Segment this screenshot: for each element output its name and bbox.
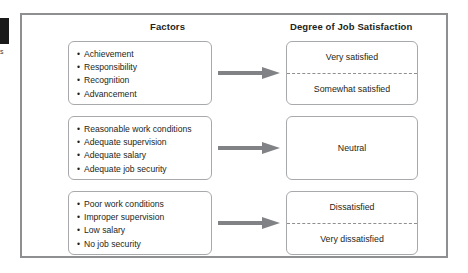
list-item: Responsibility: [77, 61, 211, 74]
factors-list: Reasonable work conditions Adequate supe…: [77, 123, 211, 176]
right-arrow-icon: [218, 66, 280, 80]
column-headers: Factors Degree of Job Satisfaction: [22, 15, 446, 43]
factors-list: Achievement Responsibility Recognition A…: [77, 48, 211, 101]
satisfaction-box: Dissatisfied Very dissatisfied: [286, 191, 418, 255]
list-item: Achievement: [77, 48, 211, 61]
figure-row: Achievement Responsibility Recognition A…: [22, 41, 446, 109]
page-edge-tab: [0, 18, 9, 44]
figure-rows: Achievement Responsibility Recognition A…: [22, 41, 446, 266]
list-item: Poor work conditions: [77, 198, 211, 211]
satisfaction-box: Very satisfied Somewhat satisfied: [286, 41, 418, 105]
satisfaction-label: Dissatisfied: [287, 192, 417, 223]
figure-row: Poor work conditions Improper supervisio…: [22, 191, 446, 259]
right-arrow-icon: [218, 141, 280, 155]
factors-list: Poor work conditions Improper supervisio…: [77, 198, 211, 251]
list-item: No job security: [77, 238, 211, 251]
list-item: Low salary: [77, 224, 211, 237]
satisfaction-label: Very dissatisfied: [287, 224, 417, 255]
page-edge-text-fragment: s: [0, 47, 8, 56]
figure-frame: Factors Degree of Job Satisfaction Achie…: [20, 13, 448, 258]
column-header-degree-of-job-satisfaction: Degree of Job Satisfaction: [290, 21, 412, 32]
figure-row: Reasonable work conditions Adequate supe…: [22, 116, 446, 184]
list-item: Advancement: [77, 88, 211, 101]
satisfaction-label: Somewhat satisfied: [287, 74, 417, 105]
list-item: Adequate salary: [77, 149, 211, 162]
right-arrow-icon: [218, 216, 280, 230]
factors-box: Reasonable work conditions Adequate supe…: [68, 116, 212, 180]
factors-box: Poor work conditions Improper supervisio…: [68, 191, 212, 255]
list-item: Adequate job security: [77, 163, 211, 176]
satisfaction-label: Very satisfied: [287, 42, 417, 73]
column-header-factors: Factors: [150, 21, 185, 32]
list-item: Reasonable work conditions: [77, 123, 211, 136]
satisfaction-label: Neutral: [287, 117, 417, 179]
satisfaction-box: Neutral: [286, 116, 418, 180]
list-item: Adequate supervision: [77, 136, 211, 149]
factors-box: Achievement Responsibility Recognition A…: [68, 41, 212, 105]
list-item: Improper supervision: [77, 211, 211, 224]
list-item: Recognition: [77, 74, 211, 87]
